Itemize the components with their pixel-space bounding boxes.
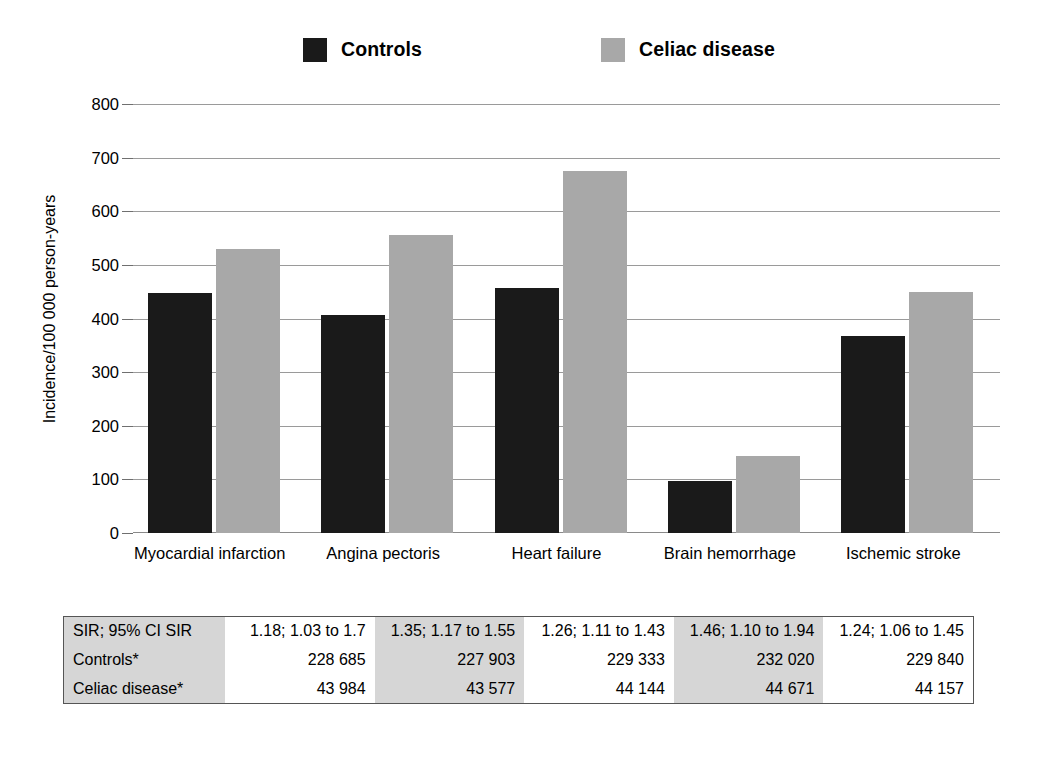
bar-controls-angina-pectoris bbox=[321, 315, 385, 533]
y-tick-200 bbox=[122, 426, 133, 427]
table-row-label: Controls* bbox=[64, 646, 225, 675]
y-tick-0 bbox=[122, 533, 133, 534]
x-axis-label-myocardial-infarction: Myocardial infarction bbox=[123, 545, 296, 562]
bar-celiac-disease-brain-hemorrhage bbox=[736, 456, 800, 533]
y-tick-400 bbox=[122, 319, 133, 320]
table-row-label: SIR; 95% CI SIR bbox=[64, 617, 225, 646]
y-tick-100 bbox=[122, 479, 133, 480]
y-tick-800 bbox=[122, 104, 133, 105]
table-cell: 44 157 bbox=[823, 674, 973, 703]
x-axis-label-heart-failure: Heart failure bbox=[470, 545, 643, 562]
bar-celiac-disease-ischemic-stroke bbox=[909, 292, 973, 533]
bar-controls-myocardial-infarction bbox=[148, 293, 212, 533]
table-cell: 1.18; 1.03 to 1.7 bbox=[225, 617, 375, 646]
bar-controls-brain-hemorrhage bbox=[668, 481, 732, 533]
y-tick-label-400: 400 bbox=[37, 310, 119, 327]
y-tick-label-100: 100 bbox=[37, 471, 119, 488]
bar-celiac-disease-myocardial-infarction bbox=[216, 249, 280, 533]
table-row-label: Celiac disease* bbox=[64, 674, 225, 703]
table-cell: 43 577 bbox=[375, 674, 525, 703]
gridline-700 bbox=[133, 158, 1000, 159]
y-tick-500 bbox=[122, 265, 133, 266]
x-axis-label-ischemic-stroke: Ischemic stroke bbox=[817, 545, 990, 562]
x-axis-label-brain-hemorrhage: Brain hemorrhage bbox=[643, 545, 816, 562]
table-row: Celiac disease*43 98443 57744 14444 6714… bbox=[64, 674, 973, 703]
table-cell: 43 984 bbox=[225, 674, 375, 703]
table-row: SIR; 95% CI SIR1.18; 1.03 to 1.71.35; 1.… bbox=[64, 617, 973, 646]
bar-controls-ischemic-stroke bbox=[841, 336, 905, 533]
y-tick-label-0: 0 bbox=[37, 525, 119, 542]
y-tick-label-300: 300 bbox=[37, 364, 119, 381]
y-tick-label-500: 500 bbox=[37, 257, 119, 274]
table-cell: 1.24; 1.06 to 1.45 bbox=[823, 617, 973, 646]
gridline-800 bbox=[133, 104, 1000, 105]
y-tick-300 bbox=[122, 372, 133, 373]
table-row: Controls*228 685227 903229 333232 020229… bbox=[64, 646, 973, 675]
x-axis-label-angina-pectoris: Angina pectoris bbox=[296, 545, 469, 562]
y-tick-label-200: 200 bbox=[37, 418, 119, 435]
table-cell: 1.35; 1.17 to 1.55 bbox=[375, 617, 525, 646]
table-cell: 1.26; 1.11 to 1.43 bbox=[524, 617, 674, 646]
statistics-table: SIR; 95% CI SIR1.18; 1.03 to 1.71.35; 1.… bbox=[63, 616, 974, 704]
table-cell: 232 020 bbox=[674, 646, 824, 675]
table-cell: 44 144 bbox=[524, 674, 674, 703]
table-cell: 229 840 bbox=[823, 646, 973, 675]
bar-chart: Incidence/100 000 person-years 010020030… bbox=[0, 0, 1037, 600]
y-tick-label-700: 700 bbox=[37, 149, 119, 166]
y-tick-700 bbox=[122, 158, 133, 159]
table-cell: 1.46; 1.10 to 1.94 bbox=[674, 617, 824, 646]
table-cell: 227 903 bbox=[375, 646, 525, 675]
table-cell: 228 685 bbox=[225, 646, 375, 675]
y-tick-600 bbox=[122, 211, 133, 212]
table-cell: 44 671 bbox=[674, 674, 824, 703]
plot-area: 0100200300400500600700800 bbox=[133, 104, 1000, 533]
bar-celiac-disease-heart-failure bbox=[563, 171, 627, 533]
y-tick-label-800: 800 bbox=[37, 96, 119, 113]
bar-controls-heart-failure bbox=[495, 288, 559, 533]
table-cell: 229 333 bbox=[524, 646, 674, 675]
bar-celiac-disease-angina-pectoris bbox=[389, 235, 453, 533]
y-tick-label-600: 600 bbox=[37, 203, 119, 220]
statistics-table-body: SIR; 95% CI SIR1.18; 1.03 to 1.71.35; 1.… bbox=[64, 617, 973, 703]
